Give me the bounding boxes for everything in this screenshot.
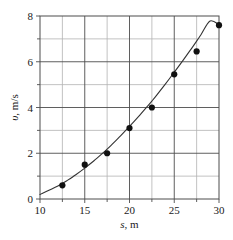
x-axis-tick-labels: 1015202530 (35, 204, 226, 216)
data-point-3 (126, 125, 132, 131)
svg-text:υ, m/s: υ, m/s (8, 94, 20, 120)
y-axis-title: υ, m/s (8, 94, 20, 120)
x-tick-label: 25 (169, 204, 181, 216)
scatter-plot: 1015202530 02468 s, m υ, m/s (0, 0, 233, 240)
data-point-1 (82, 162, 88, 168)
x-axis-title: s, m (120, 218, 139, 230)
x-tick-label: 20 (124, 204, 136, 216)
data-point-4 (149, 104, 155, 110)
data-point-2 (104, 150, 110, 156)
data-point-6 (194, 48, 200, 54)
y-axis-tick-labels: 02468 (28, 10, 34, 205)
x-tick-label: 15 (79, 204, 91, 216)
x-tick-label: 10 (35, 204, 47, 216)
svg-text:s, m: s, m (120, 218, 139, 230)
data-point-7 (216, 22, 222, 28)
chart-figure: 1015202530 02468 s, m υ, m/s (0, 0, 233, 240)
x-tick-label: 30 (214, 204, 226, 216)
y-tick-label: 8 (28, 10, 34, 22)
data-point-5 (171, 71, 177, 77)
y-tick-label: 2 (28, 147, 34, 159)
y-tick-label: 0 (28, 193, 34, 205)
y-tick-label: 6 (28, 56, 34, 68)
y-tick-label: 4 (28, 102, 34, 114)
data-point-0 (59, 182, 65, 188)
